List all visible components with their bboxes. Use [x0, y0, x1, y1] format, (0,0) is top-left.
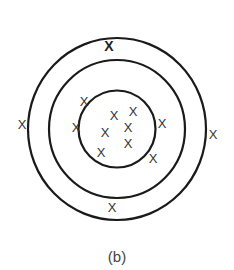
inner-ring: [79, 91, 156, 168]
figure-caption: (b): [0, 248, 234, 265]
x-marks: XXXXXXXXXXXXXX: [18, 38, 218, 215]
x-mark: X: [18, 117, 27, 132]
x-mark: X: [124, 120, 133, 135]
x-mark: X: [108, 200, 117, 215]
x-mark: X: [72, 120, 81, 135]
x-mark: X: [80, 94, 89, 109]
x-mark: X: [149, 151, 158, 166]
x-mark: X: [129, 104, 138, 119]
concentric-rings: [28, 38, 206, 220]
x-mark: X: [124, 136, 133, 151]
x-mark: X: [101, 125, 110, 140]
x-mark: X: [110, 108, 119, 123]
outer-ring: [28, 38, 206, 220]
target-diagram: XXXXXXXXXXXXXX: [0, 0, 234, 270]
x-mark: X: [97, 145, 106, 160]
x-mark: X: [158, 116, 167, 131]
x-mark: X: [104, 38, 114, 54]
x-mark: X: [209, 127, 218, 142]
